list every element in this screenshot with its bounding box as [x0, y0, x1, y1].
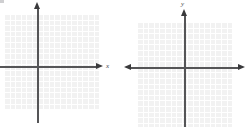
left-y-axis-top-tick	[0, 0, 4, 3]
left-x-axis-label: x	[106, 63, 109, 70]
right-x-axis-line	[130, 67, 240, 69]
right-y-axis-line	[184, 15, 186, 127]
right-y-axis-up-arrow-icon	[181, 9, 187, 16]
right-x-axis-left-arrow-icon	[124, 64, 131, 70]
two-coordinate-planes-figure: x y	[0, 0, 248, 127]
left-y-axis-up-arrow-icon	[34, 2, 40, 9]
right-y-axis-label: y	[181, 1, 184, 8]
right-x-axis-right-arrow-icon	[238, 64, 245, 70]
left-x-axis-right-arrow-icon	[96, 63, 103, 69]
left-x-axis-line	[0, 66, 98, 68]
left-coordinate-plane: x	[0, 0, 4, 3]
left-grid-background	[4, 14, 100, 110]
